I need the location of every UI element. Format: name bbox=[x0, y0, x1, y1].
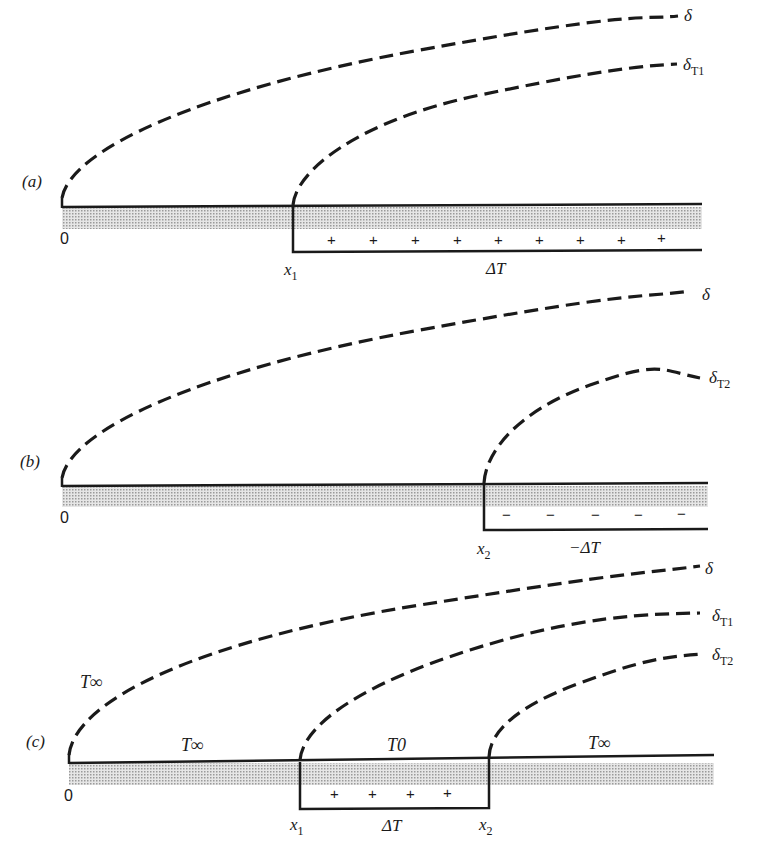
x2-label: x2 bbox=[479, 815, 493, 835]
x2-label: x2 bbox=[477, 539, 491, 559]
delta-t1-label: δT1 bbox=[683, 55, 704, 75]
thermal-boundary-layer-curve-1 bbox=[300, 613, 700, 760]
wall-hatch bbox=[69, 763, 714, 785]
velocity-boundary-layer-curve bbox=[69, 566, 700, 755]
panel-b bbox=[62, 291, 708, 530]
delta-t2-label: δT2 bbox=[709, 368, 730, 388]
minus-delta-t-label: −ΔT bbox=[569, 538, 600, 558]
plate-surface bbox=[62, 483, 708, 486]
thermal-boundary-layer-curve bbox=[293, 64, 677, 205]
delta-t1-label: δT1 bbox=[712, 606, 733, 626]
boundary-layer-diagram bbox=[0, 0, 760, 848]
wall-temp-left-label: T∞ bbox=[181, 735, 204, 756]
panel-a bbox=[62, 16, 702, 252]
panel-label-c: (c) bbox=[26, 732, 45, 752]
origin-label: 0 bbox=[60, 230, 69, 248]
delta-t2-label: δT2 bbox=[712, 645, 733, 665]
panel-label-b: (b) bbox=[20, 452, 40, 472]
panel-label-a: (a) bbox=[22, 172, 42, 192]
thermal-boundary-layer-curve bbox=[484, 369, 700, 483]
wall-hatch bbox=[62, 486, 708, 507]
panel-c bbox=[69, 566, 714, 809]
plate-surface bbox=[62, 204, 702, 207]
x1-label: x1 bbox=[284, 260, 298, 280]
wall-temp-right-label: T∞ bbox=[588, 733, 611, 754]
wall-temp-mid-label: T0 bbox=[387, 735, 406, 756]
origin-label: 0 bbox=[64, 787, 73, 805]
wall-hatch bbox=[62, 207, 702, 229]
delta-label: δ bbox=[705, 559, 713, 579]
delta-label: δ bbox=[684, 6, 692, 26]
delta-t-label: ΔT bbox=[486, 259, 505, 279]
x1-label: x1 bbox=[290, 815, 304, 835]
delta-t-label: ΔT bbox=[382, 816, 401, 836]
free-stream-temp-label: T∞ bbox=[80, 672, 103, 693]
plate-surface bbox=[69, 755, 714, 763]
velocity-boundary-layer-curve bbox=[62, 16, 678, 198]
delta-label: δ bbox=[702, 285, 710, 305]
origin-label: 0 bbox=[60, 509, 69, 527]
